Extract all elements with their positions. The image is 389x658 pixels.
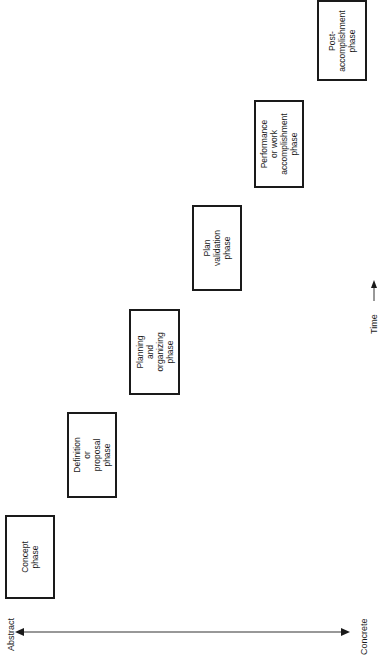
time-arrow-icon [371,280,377,288]
axis-arrows [0,0,389,658]
abstract-label: Abstract [6,618,16,651]
arrow-left-icon [15,628,24,636]
arrow-right-icon [341,628,350,636]
time-label: Time [369,314,379,334]
concrete-label: Concrete [359,618,369,655]
